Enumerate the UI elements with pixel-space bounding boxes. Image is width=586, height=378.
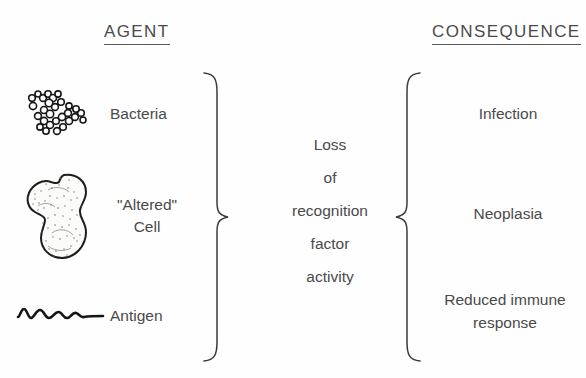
consequence-label-reduced-line2: response xyxy=(424,311,586,334)
antigen-squiggle-icon xyxy=(16,303,106,325)
consequence-label-neoplasia: Neoplasia xyxy=(430,203,586,225)
center-text-line-1: Loss xyxy=(268,136,392,154)
agent-label-altered-cell-line2: Cell xyxy=(88,216,206,238)
consequence-label-reduced-line1: Reduced immune xyxy=(424,288,586,311)
right-curly-brace xyxy=(388,70,426,364)
column-header-agent: AGENT xyxy=(104,22,170,45)
center-text-line-4: factor xyxy=(268,235,392,253)
agent-label-bacteria: Bacteria xyxy=(110,103,167,125)
agent-label-altered-cell: "Altered" Cell xyxy=(88,194,206,238)
agent-label-antigen: Antigen xyxy=(110,305,163,327)
consequence-label-infection: Infection xyxy=(430,103,586,125)
center-text-line-5: activity xyxy=(268,268,392,286)
bacteria-cluster-icon xyxy=(24,88,96,146)
center-text-block: Loss of recognition factor activity xyxy=(268,136,392,286)
immunology-diagram: AGENT CONSEQUENCE xyxy=(0,0,586,378)
center-text-line-3: recognition xyxy=(268,202,392,220)
left-curly-brace xyxy=(198,70,236,364)
consequence-label-reduced-immune-response: Reduced immune response xyxy=(424,288,586,334)
agent-label-altered-cell-line1: "Altered" xyxy=(88,194,206,216)
center-text-line-2: of xyxy=(268,169,392,187)
column-header-consequence: CONSEQUENCE xyxy=(432,22,581,45)
